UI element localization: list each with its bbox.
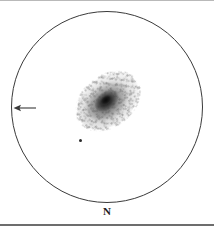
- field-of-view-circle: [12, 12, 203, 203]
- observing-sketch-frame: N: [0, 0, 214, 226]
- field-star: [79, 139, 82, 142]
- north-direction-label: N: [0, 205, 214, 217]
- left-arrow-icon: [13, 102, 37, 114]
